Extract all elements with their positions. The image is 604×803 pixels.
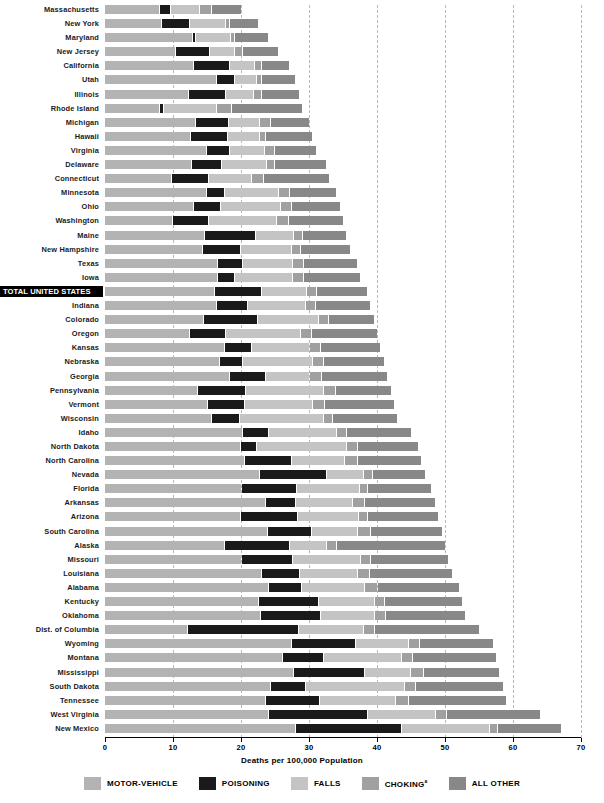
bar-segment-choking bbox=[255, 61, 261, 70]
legend-item-falls[interactable]: FALLS bbox=[291, 777, 341, 790]
bar-segment-poisoning bbox=[207, 188, 224, 197]
bar-segment-falls bbox=[245, 400, 312, 409]
row-label-south-carolina: South Carolina bbox=[0, 526, 103, 537]
bar-segment-motor-vehicle bbox=[105, 470, 259, 479]
legend-label: ALL OTHER bbox=[472, 779, 520, 788]
legend-item-motor-vehicle[interactable]: MOTOR-VEHICLE bbox=[84, 777, 178, 790]
legend-item-poisoning[interactable]: POISONING bbox=[199, 777, 270, 790]
bar-segment-motor-vehicle bbox=[105, 541, 224, 550]
row-label-oregon: Oregon bbox=[0, 328, 103, 339]
bar-row bbox=[105, 456, 421, 465]
bar-row bbox=[105, 33, 268, 42]
bar-segment-choking bbox=[313, 400, 324, 409]
row-label-missouri: Missouri bbox=[0, 554, 103, 565]
bar-segment-poisoning bbox=[192, 160, 221, 169]
bar-segment-poisoning bbox=[262, 569, 298, 578]
bar-segment-motor-vehicle bbox=[105, 315, 203, 324]
row-label-iowa: Iowa bbox=[0, 272, 103, 283]
bar-segment-poisoning bbox=[198, 386, 245, 395]
bar-row bbox=[105, 357, 384, 366]
x-tick-label-10: 10 bbox=[169, 743, 178, 752]
row-label-florida: Florida bbox=[0, 483, 103, 494]
bar-segment-all-other bbox=[289, 216, 343, 225]
bar-segment-poisoning bbox=[241, 512, 297, 521]
row-label-idaho: Idaho bbox=[0, 427, 103, 438]
x-tick-label-50: 50 bbox=[441, 743, 450, 752]
bar-segment-poisoning bbox=[259, 597, 318, 606]
bar-row bbox=[105, 273, 360, 282]
bar-segment-poisoning bbox=[292, 639, 355, 648]
bar-row bbox=[105, 639, 493, 648]
row-label-ohio: Ohio bbox=[0, 201, 103, 212]
bar-segment-all-other bbox=[292, 202, 339, 211]
bar-segment-falls bbox=[243, 259, 292, 268]
x-tick-70 bbox=[581, 738, 582, 742]
bar-segment-all-other bbox=[365, 498, 435, 507]
bar-segment-all-other bbox=[375, 625, 479, 634]
row-label-indiana: Indiana bbox=[0, 300, 103, 311]
row-label-mississippi: Mississippi bbox=[0, 667, 103, 678]
bar-segment-motor-vehicle bbox=[105, 202, 193, 211]
bar-row bbox=[105, 47, 278, 56]
bar-segment-choking bbox=[277, 216, 288, 225]
bar-segment-poisoning bbox=[220, 357, 243, 366]
bar-segment-all-other bbox=[373, 470, 425, 479]
bar-segment-choking bbox=[281, 202, 292, 211]
bar-segment-falls bbox=[297, 484, 359, 493]
bar-segment-poisoning bbox=[269, 583, 301, 592]
bar-segment-all-other bbox=[385, 597, 462, 606]
bar-segment-falls bbox=[225, 188, 278, 197]
bar-segment-poisoning bbox=[204, 315, 257, 324]
bar-segment-motor-vehicle bbox=[105, 216, 172, 225]
bar-segment-falls bbox=[306, 682, 404, 691]
legend-item-all-other[interactable]: ALL OTHER bbox=[449, 777, 520, 790]
bar-segment-falls bbox=[246, 386, 323, 395]
legend-item-choking[interactable]: CHOKINGa bbox=[362, 777, 428, 790]
bar-segment-poisoning bbox=[176, 47, 209, 56]
row-label-new-hampshire: New Hampshire bbox=[0, 244, 103, 255]
bar-segment-all-other bbox=[347, 428, 411, 437]
bar-row bbox=[105, 611, 465, 620]
bar-segment-all-other bbox=[266, 132, 312, 141]
bar-segment-all-other bbox=[301, 245, 350, 254]
bar-segment-motor-vehicle bbox=[105, 668, 293, 677]
bar-segment-poisoning bbox=[230, 372, 265, 381]
bar-row bbox=[105, 19, 258, 28]
row-label-delaware: Delaware bbox=[0, 159, 103, 170]
bar-segment-choking bbox=[375, 597, 385, 606]
bar-segment-choking bbox=[359, 512, 368, 521]
bar-segment-poisoning bbox=[266, 696, 319, 705]
bar-segment-falls bbox=[243, 357, 312, 366]
bar-segment-falls bbox=[299, 625, 363, 634]
row-label-connecticut: Connecticut bbox=[0, 173, 103, 184]
bar-segment-poisoning bbox=[162, 19, 188, 28]
bar-segment-choking bbox=[364, 625, 374, 634]
bar-segment-poisoning bbox=[261, 611, 320, 620]
bar-segment-falls bbox=[327, 470, 363, 479]
bar-segment-poisoning bbox=[225, 343, 251, 352]
bar-segment-choking bbox=[265, 146, 274, 155]
bar-segment-motor-vehicle bbox=[105, 160, 191, 169]
bar-segment-poisoning bbox=[218, 273, 233, 282]
bar-row bbox=[105, 315, 374, 324]
bar-segment-all-other bbox=[370, 569, 452, 578]
bar-segment-falls bbox=[230, 61, 254, 70]
bar-segment-all-other bbox=[378, 583, 459, 592]
x-tick-50 bbox=[445, 738, 446, 742]
bar-segment-falls bbox=[210, 47, 233, 56]
bar-segment-all-other bbox=[230, 19, 258, 28]
bar-segment-poisoning bbox=[294, 668, 364, 677]
bar-segment-poisoning bbox=[242, 555, 292, 564]
bar-segment-poisoning bbox=[194, 61, 228, 70]
bar-segment-all-other bbox=[337, 541, 445, 550]
row-label-new-york: New York bbox=[0, 18, 103, 29]
bar-segment-choking bbox=[257, 75, 261, 84]
bar-segment-motor-vehicle bbox=[105, 245, 202, 254]
row-label-nevada: Nevada bbox=[0, 469, 103, 480]
x-axis-title: Deaths per 100,000 Population bbox=[0, 756, 604, 765]
bar-segment-all-other bbox=[262, 90, 298, 99]
bar-segment-poisoning bbox=[217, 301, 247, 310]
row-label-new-jersey: New Jersey bbox=[0, 46, 103, 57]
row-label-rhode-island: Rhode Island bbox=[0, 103, 103, 114]
bar-segment-falls bbox=[300, 569, 357, 578]
